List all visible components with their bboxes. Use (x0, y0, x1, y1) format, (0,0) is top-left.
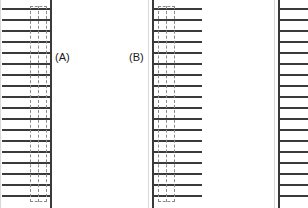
panel-right-rung (278, 195, 308, 197)
panel-right-rung (278, 107, 308, 109)
label-a: (A) (55, 52, 70, 63)
panel-right-rung (278, 162, 308, 164)
panel-right-rung (278, 19, 308, 21)
panel-right-rung (278, 63, 308, 65)
panel-right-rung (278, 30, 308, 32)
panel-right-rung (278, 96, 308, 98)
panel-right-rung (278, 118, 308, 120)
label-b: (B) (129, 52, 144, 63)
panel-right (0, 0, 308, 208)
panel-right-rung (278, 41, 308, 43)
panel-right-rung (278, 52, 308, 54)
technical-diagram-figure: (A)(B) (0, 0, 308, 208)
panel-right-rung (278, 74, 308, 76)
panel-right-rung (278, 184, 308, 186)
panel-right-rung (278, 85, 308, 87)
panel-right-rung (278, 8, 308, 10)
panel-right-rung (278, 129, 308, 131)
panel-right-rung (278, 151, 308, 153)
panel-right-rung (278, 173, 308, 175)
panel-right-rung (278, 140, 308, 142)
